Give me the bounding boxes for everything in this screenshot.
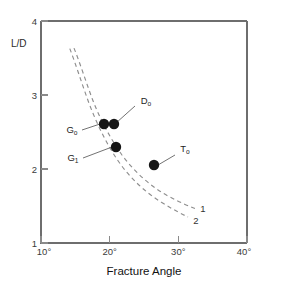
curve-labels: 1 2 [193, 203, 205, 226]
leader-lines [82, 106, 175, 165]
point-label-G1: G1 [67, 152, 78, 164]
leader-line-D0 [116, 106, 135, 123]
model-curve-2 [70, 49, 188, 217]
point-label-D0: Do [141, 95, 152, 107]
x-tick-label-10: 10° [37, 246, 52, 257]
point-label-G0: Go [66, 124, 77, 136]
figure-container: 4 3 2 1 10° 20° 30° 40° 1 2 [0, 0, 283, 282]
y-axis-ticks [41, 21, 48, 243]
y-axis-label: L/D [11, 38, 27, 49]
x-tick-label-20: 20° [103, 246, 118, 257]
curve-label-2: 2 [193, 215, 198, 226]
point-label-T0: To [180, 143, 190, 155]
y-tick-label-2: 2 [32, 164, 37, 175]
x-tick-label-30: 30° [171, 246, 186, 257]
y-tick-labels: 4 3 2 1 [32, 16, 37, 249]
data-point-D0[interactable] [109, 119, 119, 129]
x-tick-label-40: 40° [237, 246, 252, 257]
leader-line-G1 [83, 147, 112, 158]
data-point-T0[interactable] [149, 160, 159, 170]
curve-label-1: 1 [200, 203, 205, 214]
x-tick-labels: 10° 20° 30° 40° [37, 246, 252, 257]
x-axis-title: Fracture Angle [107, 265, 182, 277]
y-tick-label-4: 4 [32, 16, 37, 27]
model-curves [70, 48, 195, 217]
scatter-plot: 4 3 2 1 10° 20° 30° 40° 1 2 [0, 0, 283, 282]
leader-line-G0 [82, 124, 100, 130]
data-point-G0[interactable] [99, 119, 109, 129]
model-curve-1 [74, 48, 195, 208]
data-points [99, 119, 159, 170]
y-tick-label-3: 3 [32, 90, 37, 101]
x-axis-ticks [41, 236, 247, 243]
data-point-G1[interactable] [111, 142, 121, 152]
leader-line-T0 [158, 155, 175, 165]
